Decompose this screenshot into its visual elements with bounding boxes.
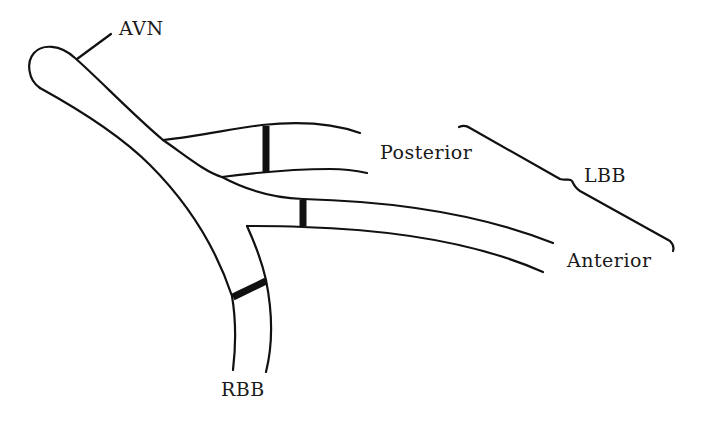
conduction-system-diagram	[0, 0, 703, 427]
rbb-left-edge	[40, 88, 235, 370]
rbb-right-edge	[247, 226, 271, 372]
label-avn: AVN	[119, 17, 164, 39]
posterior-fascicle-upper	[163, 123, 360, 140]
posterior-fascicle-lower	[222, 169, 367, 177]
label-anterior: Anterior	[567, 249, 652, 271]
rbb-block-bar	[233, 281, 266, 297]
lbb-brace	[459, 126, 673, 251]
avn-pointer-line	[77, 34, 111, 59]
lbb-inner-upper-edge	[163, 140, 553, 243]
label-lbb: LBB	[584, 164, 626, 186]
label-rbb: RBB	[221, 378, 265, 400]
anterior-fascicle-lower	[247, 226, 543, 272]
label-posterior: Posterior	[380, 141, 472, 163]
